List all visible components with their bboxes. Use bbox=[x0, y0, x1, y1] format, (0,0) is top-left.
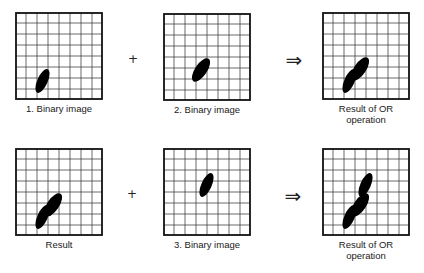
binary-image-3-label: 3. Binary image bbox=[137, 239, 277, 250]
grid-result bbox=[15, 148, 103, 236]
implies-arrow-icon-top: ⇒ bbox=[286, 48, 303, 72]
result-panel: Result bbox=[15, 148, 103, 236]
or-result-top-label: Result of OR operation bbox=[324, 103, 408, 125]
or-result-top-panel: Result of OR operation bbox=[322, 12, 410, 100]
plus-operator-bottom: + bbox=[127, 187, 137, 201]
plus-operator-top: + bbox=[128, 52, 138, 66]
figure-canvas: 1. Binary image + 2. Binary image ⇒ Resu… bbox=[0, 0, 424, 273]
grid-or-result-top bbox=[322, 12, 410, 100]
binary-image-1-label: 1. Binary image bbox=[0, 103, 129, 114]
grid-binary-image-3 bbox=[163, 148, 251, 236]
binary-image-2-label: 2. Binary image bbox=[137, 104, 277, 115]
grid-binary-image-2 bbox=[163, 13, 251, 101]
binary-image-2-panel: 2. Binary image bbox=[163, 13, 251, 101]
binary-image-3-panel: 3. Binary image bbox=[163, 148, 251, 236]
result-label: Result bbox=[0, 239, 129, 250]
or-result-bottom-panel: Result of OR operation bbox=[322, 148, 410, 236]
binary-image-1-panel: 1. Binary image bbox=[15, 12, 103, 100]
implies-arrow-icon-bottom: ⇒ bbox=[285, 184, 302, 208]
or-result-bottom-label: Result of OR operation bbox=[324, 239, 408, 261]
grid-binary-image-1 bbox=[15, 12, 103, 100]
grid-or-result-bottom bbox=[322, 148, 410, 236]
